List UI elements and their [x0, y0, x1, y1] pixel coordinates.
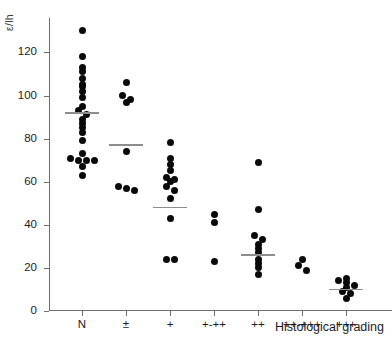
data-point: [255, 206, 262, 213]
x-axis-label: Histological grading: [275, 320, 384, 334]
data-point: [251, 232, 258, 239]
data-point: [167, 195, 174, 202]
data-point: [211, 211, 218, 218]
data-point: [211, 219, 218, 226]
data-point: [171, 187, 178, 194]
data-point: [79, 150, 86, 157]
data-point: [123, 185, 130, 192]
x-tick-mark: [170, 310, 171, 316]
y-tick-mark: 80: [44, 139, 49, 140]
data-point: [79, 137, 86, 144]
data-point: [343, 295, 350, 302]
mean-line: [329, 289, 363, 291]
data-point: [79, 163, 86, 170]
data-point: [79, 27, 86, 34]
y-tick-mark: 100: [44, 96, 49, 97]
x-tick-label: N: [78, 319, 86, 331]
data-point: [351, 282, 358, 289]
y-axis-label: ε/lh: [4, 14, 15, 31]
y-axis-line: [49, 18, 50, 311]
x-tick-mark: [258, 310, 259, 316]
x-tick-label: ±: [123, 319, 129, 331]
x-tick-label: ++: [251, 319, 264, 331]
data-point: [67, 155, 74, 162]
data-point: [211, 258, 218, 265]
data-point: [119, 92, 126, 99]
y-tick-label: 40: [24, 219, 37, 231]
x-tick-label: +-++: [202, 319, 226, 331]
y-tick-mark: 0: [44, 311, 49, 312]
x-axis-line: [49, 310, 392, 311]
data-point: [163, 256, 170, 263]
mean-line: [241, 254, 275, 256]
y-tick-label: 80: [24, 133, 37, 145]
data-point: [79, 94, 86, 101]
x-tick-mark: [346, 310, 347, 316]
data-point: [167, 215, 174, 222]
y-tick-mark: 120: [44, 52, 49, 53]
y-tick-label: 100: [18, 90, 37, 102]
x-tick-mark: [126, 310, 127, 316]
data-point: [163, 183, 170, 190]
x-tick-mark: [214, 310, 215, 316]
x-tick-mark: [82, 310, 83, 316]
mean-line: [109, 144, 143, 146]
data-point: [123, 148, 130, 155]
mean-line: [65, 112, 99, 114]
y-tick-label: 60: [24, 176, 37, 188]
y-tick-mark: 60: [44, 182, 49, 183]
data-point: [115, 183, 122, 190]
x-tick-label: +: [167, 319, 174, 331]
data-point: [79, 53, 86, 60]
y-tick-label: 0: [31, 305, 37, 317]
data-point: [303, 267, 310, 274]
data-point: [295, 262, 302, 269]
data-point: [79, 172, 86, 179]
data-point: [255, 271, 262, 278]
data-point: [335, 277, 342, 284]
y-tick-mark: 40: [44, 225, 49, 226]
y-tick-label: 20: [24, 262, 37, 274]
data-point: [131, 187, 138, 194]
mean-line: [153, 207, 187, 209]
data-point: [123, 99, 130, 106]
data-point: [79, 129, 86, 136]
scatter-chart-figure: ε/lh 020406080100120 N±++-++++++-++++++ …: [0, 0, 392, 356]
y-tick-label: 120: [18, 47, 37, 59]
data-point: [171, 256, 178, 263]
plot-area: 020406080100120 N±++-++++++-++++++: [49, 18, 392, 311]
y-tick-mark: 20: [44, 268, 49, 269]
data-point: [91, 157, 98, 164]
x-tick-mark: [302, 310, 303, 316]
data-point: [123, 79, 130, 86]
data-point: [255, 159, 262, 166]
data-point: [167, 139, 174, 146]
